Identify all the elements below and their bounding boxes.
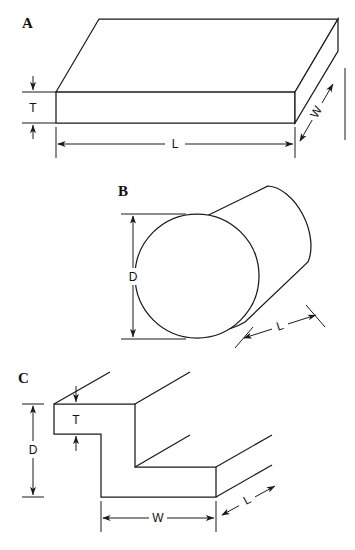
panel-a-front-face (56, 92, 295, 123)
panel-b-diameter-label: D (129, 270, 138, 284)
panel-b-front-face-circle (135, 214, 259, 338)
panel-c-width-label: W (152, 511, 164, 525)
technical-diagram-canvas: A T L (0, 0, 355, 550)
panel-a-label: A (22, 15, 33, 31)
panel-a-length-label: L (172, 137, 179, 151)
panel-c-thickness-label: T (72, 413, 80, 427)
panel-b-label: B (118, 183, 128, 199)
panel-c-depth-label: D (29, 443, 38, 457)
panel-a-top-face (56, 19, 338, 92)
panel-c-label: C (18, 370, 29, 386)
panel-a-thickness-label: T (29, 101, 37, 115)
figure-root: A T L (0, 0, 355, 550)
